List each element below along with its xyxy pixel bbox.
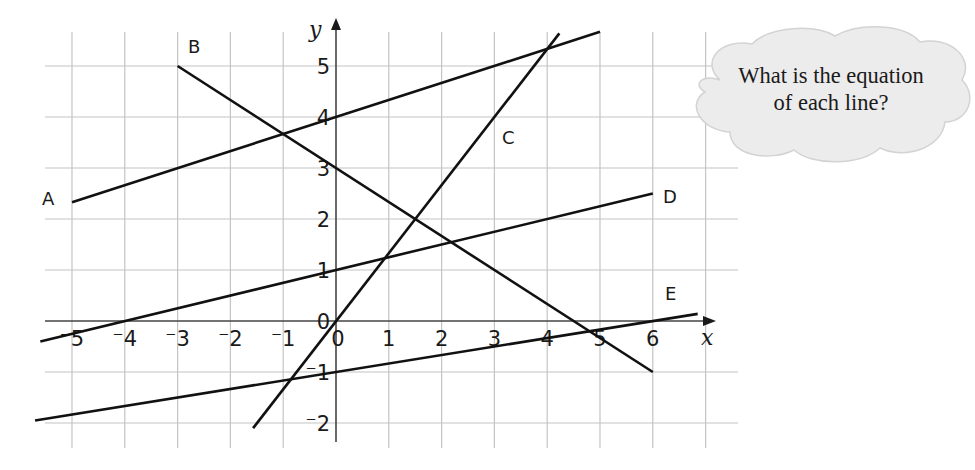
line-label-c: C (502, 127, 515, 148)
plotted-lines (35, 32, 698, 428)
y-tick-label: 4 (317, 106, 330, 130)
y-axis-label: y (308, 17, 322, 42)
grid (45, 32, 738, 448)
question-line-1: What is the equation (690, 62, 972, 89)
line-d (40, 194, 652, 342)
x-tick-label: 6 (646, 327, 659, 351)
x-tick-label: 2 (435, 327, 448, 351)
x-tick-label: 0 (331, 327, 344, 351)
line-label-b: B (188, 36, 200, 57)
tick-labels: ⁻5⁻4⁻3⁻2⁻10123456⁻2⁻1012345 (60, 55, 660, 436)
x-tick-label: ⁻3 (165, 327, 189, 351)
y-tick-label: ⁻2 (306, 412, 330, 436)
y-tick-label: 5 (317, 55, 330, 79)
y-tick-label: 2 (317, 208, 330, 232)
line-label-e: E (665, 283, 676, 304)
question-text: What is the equation of each line? (690, 62, 972, 116)
x-axis-label: x (701, 325, 714, 350)
x-tick-label: 1 (382, 327, 395, 351)
x-tick-label: ⁻1 (271, 327, 295, 351)
line-label-d: D (663, 186, 677, 207)
y-axis-arrow-icon (331, 18, 341, 30)
line-label-a: A (42, 188, 55, 209)
question-line-2: of each line? (690, 89, 972, 116)
axes (45, 18, 716, 442)
x-tick-label: ⁻2 (218, 327, 242, 351)
line-c (253, 33, 559, 428)
x-tick-label: ⁻4 (113, 327, 137, 351)
